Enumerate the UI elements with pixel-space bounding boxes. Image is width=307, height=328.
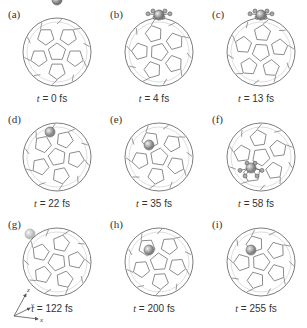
time-label: t = 58 fs	[206, 198, 306, 209]
panel-d: (d)t = 22 fs	[2, 107, 102, 215]
time-variable: t	[34, 198, 37, 209]
time-label: t = 200 fs	[104, 303, 204, 314]
panel-e: (e)t = 35 fs	[104, 107, 204, 215]
x-axis-label: x	[39, 316, 44, 324]
panel-c: (c)t = 13 fs	[206, 2, 306, 110]
time-value: = 58 fs	[244, 198, 274, 209]
panel-i: (i)t = 255 fs	[206, 212, 306, 320]
time-variable: t	[235, 303, 238, 314]
time-value: = 0 fs	[42, 93, 67, 104]
time-value: = 22 fs	[40, 198, 70, 209]
time-value: = 35 fs	[142, 198, 172, 209]
axes-triad: z y x	[4, 284, 48, 324]
time-value: = 255 fs	[241, 303, 277, 314]
time-label: t = 22 fs	[2, 198, 102, 209]
panel-h: (h)t = 200 fs	[104, 212, 204, 320]
time-value: = 13 fs	[244, 93, 274, 104]
panel-a: (a)t = 0 fs	[2, 2, 102, 110]
time-label: t = 0 fs	[2, 93, 102, 104]
time-variable: t	[136, 198, 139, 209]
time-label: t = 4 fs	[104, 93, 204, 104]
time-variable: t	[37, 93, 40, 104]
x-axis-arrow	[14, 316, 38, 319]
time-variable: t	[139, 93, 142, 104]
time-variable: t	[238, 198, 241, 209]
time-variable: t	[238, 93, 241, 104]
time-label: t = 35 fs	[104, 198, 204, 209]
panel-b: (b)t = 4 fs	[104, 2, 204, 110]
time-value: = 4 fs	[144, 93, 169, 104]
time-label: t = 13 fs	[206, 93, 306, 104]
time-variable: t	[133, 303, 136, 314]
panel-f: (f)t = 58 fs	[206, 107, 306, 215]
y-axis-label: y	[30, 301, 35, 309]
time-value: = 200 fs	[139, 303, 175, 314]
time-label: t = 255 fs	[206, 303, 306, 314]
z-axis-label: z	[26, 286, 30, 294]
